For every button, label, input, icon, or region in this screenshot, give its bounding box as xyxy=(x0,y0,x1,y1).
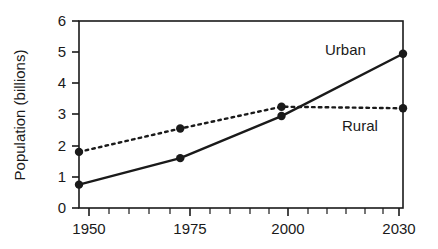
y-axis-title: Population (billions) xyxy=(11,50,28,181)
urban-point-1950 xyxy=(75,180,83,188)
urban-point-1975 xyxy=(176,154,184,162)
x-axis-minor-ticks xyxy=(109,208,383,214)
rural-point-2030 xyxy=(399,104,407,112)
series-label-urban: Urban xyxy=(325,41,366,58)
y-tick-label-3: 3 xyxy=(58,105,66,122)
chart-canvas: 0 1 2 3 4 5 6 Population (billions) xyxy=(0,0,438,249)
x-tick-label-2000: 2000 xyxy=(271,220,304,237)
y-tick-label-5: 5 xyxy=(58,43,66,60)
y-tick-label-1: 1 xyxy=(58,168,66,185)
rural-point-2000 xyxy=(277,103,285,111)
y-tick-label-2: 2 xyxy=(58,137,66,154)
urban-point-2030 xyxy=(399,50,407,58)
rural-point-1975 xyxy=(176,124,184,132)
rural-point-1950 xyxy=(75,148,83,156)
x-tick-label-2030: 2030 xyxy=(382,220,415,237)
x-tick-label-1975: 1975 xyxy=(173,220,206,237)
urban-point-2000 xyxy=(277,112,285,120)
population-line-chart: 0 1 2 3 4 5 6 Population (billions) xyxy=(0,0,438,249)
y-tick-label-6: 6 xyxy=(58,12,66,29)
x-axis-major-ticks xyxy=(89,208,399,216)
x-tick-label-1950: 1950 xyxy=(72,220,105,237)
y-tick-label-4: 4 xyxy=(58,74,66,91)
y-tick-label-0: 0 xyxy=(58,199,66,216)
y-axis-ticks xyxy=(72,21,79,208)
series-label-rural: Rural xyxy=(342,117,378,134)
